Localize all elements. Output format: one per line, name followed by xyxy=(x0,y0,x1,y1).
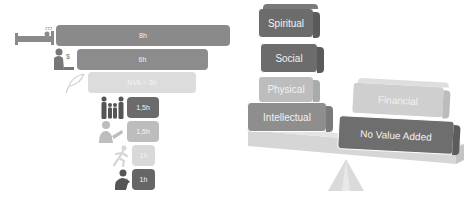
funnel-bar-work: 6h xyxy=(77,49,208,70)
funnel-bar-learning: 1,5h xyxy=(127,121,159,142)
block-label: Social xyxy=(275,53,302,64)
bar-label: 6h xyxy=(139,56,147,63)
bar-label: 1,5h xyxy=(136,128,150,135)
svg-text:$: $ xyxy=(66,53,70,60)
family-icon xyxy=(100,96,126,120)
funnel-bar-exercise: 1h xyxy=(132,145,155,166)
block-label: Financial xyxy=(378,93,419,106)
block-social: Social xyxy=(260,43,318,73)
sleeping-in-bed-icon: zzz xyxy=(14,24,56,48)
svg-text:zzz: zzz xyxy=(45,25,53,31)
block-intellectual: Intellectual xyxy=(247,102,327,132)
block-label: Intellectual xyxy=(263,112,311,123)
feather-quill-icon xyxy=(64,72,86,94)
block-physical: Physical xyxy=(258,76,314,103)
block-no-value-added: No Value Added xyxy=(337,115,455,155)
bar-label: 1,5h xyxy=(136,104,150,111)
bar-label: NVA = 3h xyxy=(127,79,156,86)
funnel-bar-family: 1,5h xyxy=(127,97,159,118)
reading-person-icon xyxy=(98,120,126,144)
bar-label: 8h xyxy=(139,32,147,39)
block-spiritual: Spiritual xyxy=(258,8,314,38)
praying-person-icon xyxy=(112,169,132,191)
block-label: Physical xyxy=(267,84,304,95)
working-at-computer-icon: $ xyxy=(52,48,76,72)
funnel-bar-nva: NVA = 3h xyxy=(88,72,196,93)
funnel-bar-sleep: 8h xyxy=(56,25,230,46)
funnel-bar-spiritual: 1h xyxy=(132,169,155,190)
block-financial: Financial xyxy=(351,82,445,119)
bar-label: 1h xyxy=(140,152,148,159)
block-label: No Value Added xyxy=(360,128,432,143)
bar-label: 1h xyxy=(140,176,148,183)
block-label: Spiritual xyxy=(268,18,304,29)
running-person-icon xyxy=(111,145,131,167)
